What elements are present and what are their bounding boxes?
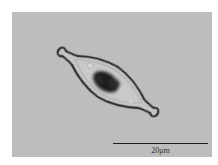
scale-bar [113, 143, 208, 144]
diatom-illustration [12, 12, 212, 157]
micrograph: 20μm [12, 12, 212, 157]
scale-bar-label: 20μm [113, 146, 208, 156]
diatom-cell [49, 35, 168, 129]
